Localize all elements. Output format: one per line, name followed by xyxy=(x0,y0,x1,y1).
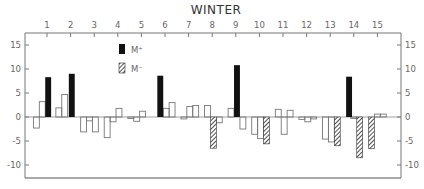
chart-title: WINTER xyxy=(191,3,242,17)
bar-open xyxy=(134,117,140,121)
x-axis-ticks: 123456789101112131415 xyxy=(44,20,383,37)
bar-m-minus xyxy=(357,117,363,158)
bar-open xyxy=(351,117,357,118)
bar-m-minus xyxy=(334,117,340,146)
bar-open xyxy=(92,117,98,132)
bar-open xyxy=(281,117,287,134)
bar-open xyxy=(39,102,45,117)
legend-label: M⁻ xyxy=(131,64,143,74)
bar-open xyxy=(287,110,293,117)
y-tick-label: 10 xyxy=(10,64,21,74)
bar-open xyxy=(228,108,234,117)
x-tick-label: 8 xyxy=(209,20,214,30)
x-tick-label: 3 xyxy=(91,20,96,30)
bar-open xyxy=(299,117,305,119)
bar-open xyxy=(305,117,311,122)
bar-open xyxy=(56,108,62,117)
y-axis-left-ticks: 151050-5-10 xyxy=(7,40,29,170)
y-tick-label: -10 xyxy=(7,160,21,170)
x-tick-label: 12 xyxy=(301,20,312,30)
y-tick-label: 0 xyxy=(16,112,21,122)
bar-open xyxy=(169,103,175,117)
x-tick-label: 14 xyxy=(348,20,359,30)
bar-m-plus xyxy=(69,74,75,117)
legend-swatch-hatched xyxy=(119,63,125,73)
y-axis-right-ticks: 151050-5-10 xyxy=(397,40,419,170)
plot-frame xyxy=(25,33,401,178)
y-tick-label-right: -10 xyxy=(405,160,419,170)
y-tick-label-right: 15 xyxy=(405,40,416,50)
bar-open xyxy=(128,117,134,118)
y-tick-label-right: 5 xyxy=(405,88,410,98)
bar-open xyxy=(275,109,281,117)
bar-m-plus xyxy=(234,65,240,117)
bar-open xyxy=(240,117,246,129)
winter-chart: WINTER 123456789101112131415 151050-5-10… xyxy=(0,0,424,189)
bar-open xyxy=(110,117,116,122)
bar-open xyxy=(33,117,39,128)
y-tick-label-right: -5 xyxy=(405,136,413,146)
y-tick-label-right: 10 xyxy=(405,64,416,74)
bar-m-plus xyxy=(157,76,163,117)
x-tick-label: 2 xyxy=(68,20,73,30)
bar-open xyxy=(140,111,146,117)
bar-open xyxy=(187,106,193,117)
bar-open xyxy=(380,114,386,117)
bar-open xyxy=(181,117,187,119)
y-tick-label: -5 xyxy=(13,136,21,146)
legend: M⁺M⁻ xyxy=(119,44,143,74)
bar-m-plus xyxy=(346,77,352,117)
bar-open xyxy=(323,117,329,139)
bar-open xyxy=(328,117,334,142)
legend-swatch-solid xyxy=(119,44,125,54)
x-tick-label: 6 xyxy=(162,20,167,30)
bar-m-minus xyxy=(264,117,270,144)
x-tick-label: 1 xyxy=(44,20,49,30)
x-tick-label: 9 xyxy=(233,20,238,30)
bar-open xyxy=(62,94,68,117)
y-tick-label: 15 xyxy=(10,40,21,50)
y-tick-label-right: 0 xyxy=(405,112,410,122)
bar-open xyxy=(104,117,110,138)
x-tick-label: 7 xyxy=(186,20,191,30)
y-tick-label: 5 xyxy=(16,88,21,98)
bar-m-minus xyxy=(210,117,216,148)
bar-open xyxy=(193,105,199,117)
bar-open xyxy=(116,108,122,117)
bar-open xyxy=(163,108,169,117)
legend-label: M⁺ xyxy=(131,45,143,55)
bar-m-minus xyxy=(369,117,375,149)
bar-open xyxy=(258,117,264,139)
bar-open xyxy=(252,117,258,134)
bar-open xyxy=(216,117,222,123)
bar-open xyxy=(374,114,380,117)
x-tick-label: 15 xyxy=(372,20,383,30)
bar-open xyxy=(205,105,211,117)
x-tick-label: 10 xyxy=(254,20,265,30)
bar-open xyxy=(87,117,93,121)
bar-series xyxy=(33,65,386,158)
bar-open xyxy=(81,117,87,132)
x-tick-label: 11 xyxy=(278,20,289,30)
bar-m-plus xyxy=(45,77,51,117)
x-tick-label: 5 xyxy=(139,20,144,30)
x-tick-label: 4 xyxy=(115,20,120,30)
x-tick-label: 13 xyxy=(325,20,336,30)
bar-open xyxy=(311,117,317,119)
